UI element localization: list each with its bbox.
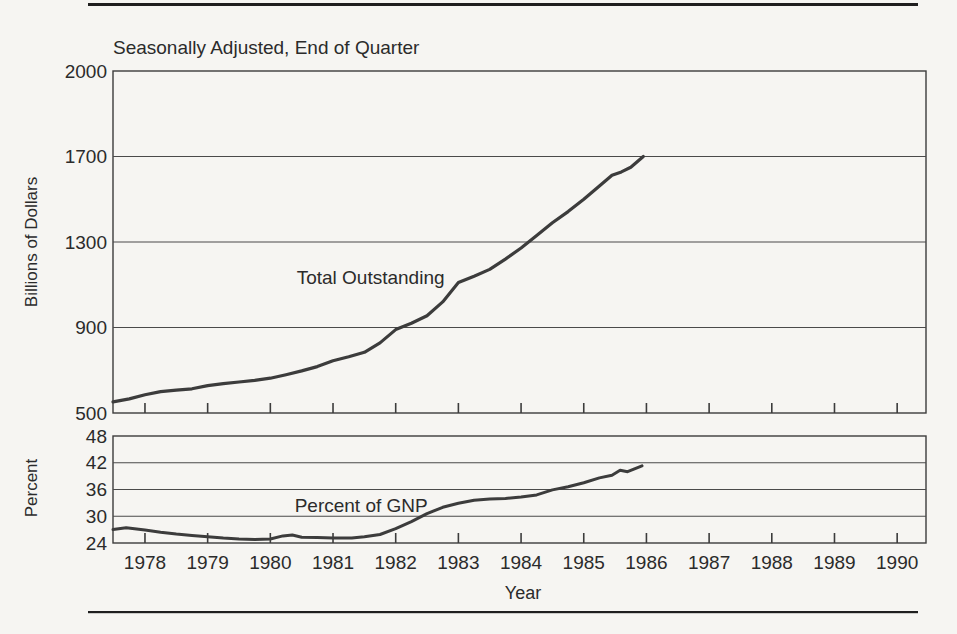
x-tick-label: 1987 [688,552,730,573]
lower-panel-percent-of-gnp: 4842363024197819791980198119821983198419… [86,426,926,574]
y-tick-label: 1300 [65,232,107,253]
percent-of-gnp-label: Percent of GNP [295,495,428,516]
x-tick-label: 1981 [312,552,354,573]
y-tick-label: 500 [75,403,107,424]
x-tick-label: 1980 [249,552,291,573]
upper-panel-total-outstanding: 200017001300900500 [65,61,926,424]
y-axis-title-billions: Billions of Dollars [22,177,41,307]
y-tick-label: 2000 [65,61,107,82]
x-tick-label: 1984 [500,552,543,573]
y-tick-label: 48 [86,426,107,447]
x-tick-label: 1985 [563,552,605,573]
y-tick-label: 30 [86,506,107,527]
y-tick-label: 36 [86,479,107,500]
x-tick-label: 1989 [813,552,855,573]
top-rule [88,3,918,6]
bottom-rule [88,611,918,613]
dual-panel-line-chart: Seasonally Adjusted, End of Quarter Bill… [0,0,957,634]
x-tick-label: 1988 [751,552,793,573]
x-tick-label: 1986 [625,552,667,573]
scanned-chart-page: Seasonally Adjusted, End of Quarter Bill… [0,0,957,634]
x-axis-title: Year [505,583,541,603]
y-tick-label: 24 [86,533,108,554]
chart-title: Seasonally Adjusted, End of Quarter [113,37,420,58]
y-axis-title-percent: Percent [22,458,41,517]
y-tick-label: 1700 [65,146,107,167]
x-tick-label: 1990 [876,552,918,573]
x-tick-label: 1979 [187,552,229,573]
x-tick-label: 1982 [375,552,417,573]
x-tick-label: 1983 [437,552,479,573]
x-tick-label: 1978 [124,552,166,573]
y-tick-label: 900 [75,317,107,338]
total-outstanding-label: Total Outstanding [297,267,445,288]
y-tick-label: 42 [86,452,107,473]
